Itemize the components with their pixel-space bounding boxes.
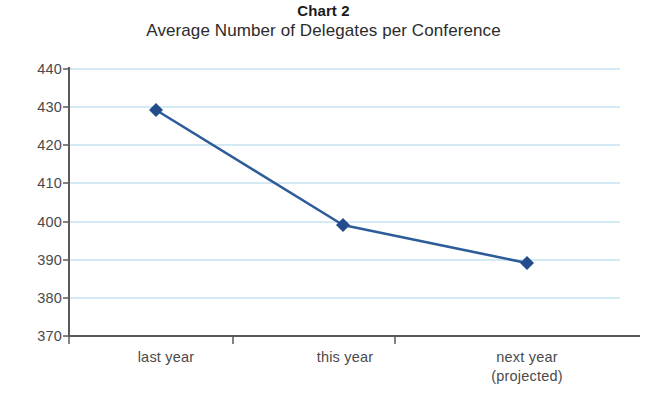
x-tick-label-this-year-line1: this year bbox=[317, 349, 374, 365]
x-tick-label-next-year-projected: next year (projected) bbox=[491, 348, 563, 386]
x-tick-label-next-year-line1: next year bbox=[496, 349, 557, 365]
x-tick-label-this-year: this year bbox=[317, 348, 374, 367]
chart-figure: Chart 2 Average Number of Delegates per … bbox=[0, 0, 647, 407]
x-axis-tick-labels: last year this year next year (projected… bbox=[0, 0, 647, 407]
x-tick-label-next-year-line2: (projected) bbox=[491, 367, 563, 386]
x-tick-label-last-year-line1: last year bbox=[138, 349, 195, 365]
x-tick-label-last-year: last year bbox=[138, 348, 195, 367]
